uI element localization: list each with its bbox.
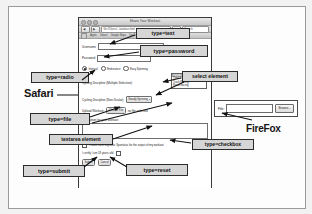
callout-type-radio: type=radio: [31, 72, 89, 83]
radio-label: Easy Spinning: [130, 67, 148, 71]
back-button[interactable]: ◀: [81, 26, 90, 33]
listbox-option[interactable]: Road Racing: [172, 84, 206, 87]
callout-type-password: type=password: [140, 45, 208, 57]
bookmark-item[interactable]: Apple: [90, 33, 97, 39]
radio-icon[interactable]: [101, 66, 106, 71]
firefox-file-input-inset: File: Browse...: [214, 100, 298, 117]
dropdown-label: Cycling Discipline (Non-Scalar):: [82, 98, 124, 102]
dropdown-row: Cycling Discipline (Non-Scalar): Steady …: [82, 96, 208, 103]
certify-checkbox-label: I certify I am 18 years old.: [82, 151, 114, 155]
firefox-browse-button[interactable]: Browse...: [275, 104, 294, 113]
radio-option-easy-spinning[interactable]: Easy Spinning: [123, 66, 147, 71]
forward-button[interactable]: ▶: [91, 26, 100, 33]
checkbox-icon[interactable]: [116, 151, 121, 156]
firefox-file-label: File:: [218, 107, 224, 111]
radio-icon[interactable]: [82, 66, 87, 71]
safari-browser-window: Share Your Workout ◀ ▶ file:///Users/...…: [78, 17, 212, 188]
callout-select-element: select element: [182, 71, 238, 82]
radio-label: Interval: [88, 67, 97, 71]
bookmark-item[interactable]: Google Maps: [111, 33, 126, 39]
file-status-text: no file selected: [128, 109, 148, 113]
firefox-file-input[interactable]: [226, 104, 273, 113]
callout-type-submit: type=submit: [23, 165, 85, 177]
callout-textarea-element: textarea element: [49, 134, 113, 145]
radio-option-endurance[interactable]: Endurance: [101, 66, 121, 71]
certify-checkbox-row[interactable]: I certify I am 18 years old.: [82, 151, 208, 156]
callout-type-checkbox: type=checkbox: [192, 139, 254, 150]
radio-icon[interactable]: [123, 66, 128, 71]
username-label: Username: [82, 45, 96, 49]
window-titlebar: Share Your Workout: [79, 18, 211, 26]
dropdown-value: Steady Spinning: [128, 97, 148, 102]
chevron-down-icon: ▾: [149, 97, 150, 102]
textarea-label: Description for your workout:: [82, 118, 208, 122]
callout-type-file: type=file: [30, 113, 90, 125]
password-label: Password: [82, 56, 95, 60]
callout-type-text: type=text: [136, 28, 190, 39]
bookmark-item[interactable]: Yahoo!: [100, 33, 108, 39]
radio-option-interval[interactable]: Interval: [82, 66, 98, 71]
callout-type-reset: type=reset: [126, 164, 188, 176]
window-title: Share Your Workout: [79, 18, 211, 25]
radio-label: Endurance: [107, 67, 121, 71]
bookmarks-icon[interactable]: [81, 33, 87, 39]
file-upload-row: Upload Workout: Choose File no file sele…: [82, 107, 208, 114]
firefox-name-label: FireFox: [246, 123, 281, 134]
choose-file-button[interactable]: Choose File: [106, 107, 125, 114]
safari-name-label: Safari: [24, 87, 53, 99]
reset-button[interactable]: Cancel: [98, 159, 111, 166]
cycling-discipline-dropdown[interactable]: Steady Spinning ▾: [126, 96, 152, 103]
screenshot-root: Share Your Workout ◀ ▶ file:///Users/...…: [0, 0, 312, 214]
